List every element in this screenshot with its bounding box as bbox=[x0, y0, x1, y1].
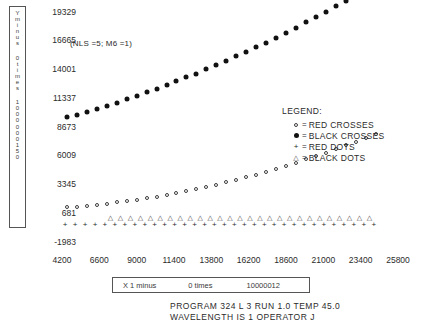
data-point-plus: + bbox=[302, 221, 307, 229]
data-point-filled-circle bbox=[303, 20, 308, 25]
data-point-open-circle bbox=[165, 193, 169, 197]
data-point-triangle: △ bbox=[247, 214, 252, 221]
data-point-filled-circle bbox=[323, 9, 328, 14]
plot-root: Y m i n u s 0 t i m e s 1 0 0 0 0 0 0 1 … bbox=[0, 0, 424, 323]
data-point-plus: + bbox=[312, 221, 317, 229]
data-point-triangle: △ bbox=[158, 214, 163, 221]
data-point-plus: + bbox=[123, 221, 128, 229]
data-point-open-circle bbox=[214, 183, 218, 187]
data-point-plus: + bbox=[242, 221, 247, 229]
data-point-triangle: △ bbox=[367, 214, 372, 221]
data-point-triangle: △ bbox=[178, 214, 183, 221]
data-point-open-circle bbox=[234, 178, 238, 182]
data-point-triangle: △ bbox=[337, 214, 342, 221]
legend-title: LEGEND: bbox=[282, 106, 384, 116]
data-point-plus: + bbox=[262, 221, 267, 229]
data-point-open-circle bbox=[254, 173, 258, 177]
data-point-plus: + bbox=[232, 221, 237, 229]
data-point-plus: + bbox=[142, 221, 147, 229]
triangle-icon: △ bbox=[291, 154, 301, 162]
data-point-open-circle bbox=[105, 202, 109, 206]
data-point-plus: + bbox=[73, 221, 78, 229]
data-point-filled-circle bbox=[313, 15, 318, 20]
data-point-filled-circle bbox=[234, 54, 239, 59]
legend-item-plus: +=RED DOTS bbox=[291, 141, 384, 152]
data-point-filled-circle bbox=[164, 83, 169, 88]
data-point-plus: + bbox=[93, 221, 98, 229]
x-tick-label: 9000 bbox=[127, 256, 146, 265]
data-point-plus: + bbox=[351, 221, 356, 229]
data-point-filled-circle bbox=[134, 93, 139, 98]
data-point-open-circle bbox=[85, 204, 89, 208]
data-point-open-circle bbox=[115, 200, 119, 204]
data-point-plus: + bbox=[322, 221, 327, 229]
data-point-plus: + bbox=[292, 221, 297, 229]
open-circle-icon bbox=[291, 123, 301, 127]
footer-program-line: PROGRAM 324 L 3 RUN 1.0 TEMP 45.0 bbox=[170, 301, 424, 312]
data-point-open-circle bbox=[284, 164, 288, 168]
data-point-triangle: △ bbox=[128, 214, 133, 221]
data-point-open-circle bbox=[224, 180, 228, 184]
data-point-filled-circle bbox=[264, 40, 269, 45]
data-point-plus: + bbox=[113, 221, 118, 229]
data-point-triangle: △ bbox=[277, 214, 282, 221]
data-point-plus: + bbox=[103, 221, 108, 229]
data-point-open-circle bbox=[125, 199, 129, 203]
data-point-triangle: △ bbox=[307, 214, 312, 221]
footer-wavelength-line: WAVELENGTH IS 1 OPERATOR J bbox=[170, 312, 424, 323]
data-point-triangle: △ bbox=[138, 214, 143, 221]
data-point-triangle: △ bbox=[148, 214, 153, 221]
x-tick-label: 11400 bbox=[162, 256, 185, 265]
data-point-open-circle bbox=[264, 170, 268, 174]
data-point-triangle: △ bbox=[327, 214, 332, 221]
x-caption-part-2: 0 times bbox=[188, 281, 212, 290]
data-point-plus: + bbox=[212, 221, 217, 229]
data-point-plus: + bbox=[83, 221, 88, 229]
data-point-plus: + bbox=[192, 221, 197, 229]
legend-equals-sign: = bbox=[302, 120, 307, 129]
plot-annotation: (NLS =5; M6 =1) bbox=[70, 39, 132, 48]
legend-rows: =RED CROSSES=BLACK CROSSES+=RED DOTS△=BL… bbox=[282, 119, 384, 163]
data-point-filled-circle bbox=[124, 97, 129, 102]
legend-equals-sign: = bbox=[302, 131, 307, 140]
data-point-triangle: △ bbox=[108, 214, 113, 221]
data-point-filled-circle bbox=[333, 4, 338, 9]
legend-item-label: BLACK CROSSES bbox=[309, 131, 385, 141]
data-point-plus: + bbox=[222, 221, 227, 229]
data-point-triangle: △ bbox=[207, 214, 212, 221]
data-point-triangle: △ bbox=[357, 214, 362, 221]
data-point-plus: + bbox=[172, 221, 177, 229]
data-point-filled-circle bbox=[64, 115, 69, 120]
data-point-filled-circle bbox=[84, 109, 89, 114]
data-point-filled-circle bbox=[74, 112, 79, 117]
data-point-open-circle bbox=[204, 185, 208, 189]
data-point-open-circle bbox=[174, 191, 178, 195]
data-point-plus: + bbox=[132, 221, 137, 229]
legend-item-triangle: △=BLACK DOTS bbox=[291, 152, 384, 163]
data-point-filled-circle bbox=[293, 25, 298, 30]
legend: LEGEND: =RED CROSSES=BLACK CROSSES+=RED … bbox=[282, 106, 384, 163]
legend-item-filled-circle: =BLACK CROSSES bbox=[291, 130, 384, 141]
legend-equals-sign: = bbox=[302, 142, 307, 151]
data-point-filled-circle bbox=[224, 58, 229, 63]
data-point-triangle: △ bbox=[297, 214, 302, 221]
x-tick-label: 13800 bbox=[200, 256, 224, 265]
data-point-triangle: △ bbox=[257, 214, 262, 221]
data-point-filled-circle bbox=[154, 86, 159, 91]
data-point-filled-circle bbox=[144, 90, 149, 95]
data-point-open-circle bbox=[194, 187, 198, 191]
footer: PROGRAM 324 L 3 RUN 1.0 TEMP 45.0 WAVELE… bbox=[170, 301, 424, 323]
x-tick-label: 21000 bbox=[312, 256, 336, 265]
x-tick-label: 6600 bbox=[90, 256, 109, 265]
data-point-open-circle bbox=[145, 196, 149, 200]
data-point-filled-circle bbox=[94, 106, 99, 111]
data-point-plus: + bbox=[252, 221, 257, 229]
x-axis-caption-box: X 1 minus 0 times 10000012 bbox=[112, 277, 310, 293]
data-point-filled-circle bbox=[184, 75, 189, 80]
data-point-open-circle bbox=[184, 189, 188, 193]
data-point-filled-circle bbox=[114, 100, 119, 105]
data-point-triangle: △ bbox=[317, 214, 322, 221]
data-point-triangle: △ bbox=[227, 214, 232, 221]
data-point-open-circle bbox=[95, 203, 99, 207]
data-point-open-circle bbox=[244, 175, 248, 179]
